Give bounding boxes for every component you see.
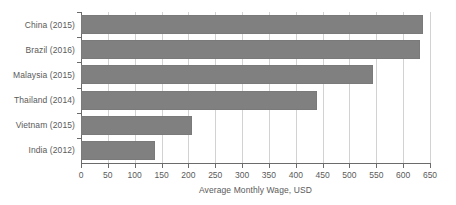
y-axis-tick-label: Thailand (2014) <box>0 88 75 113</box>
x-axis-tick <box>430 164 431 168</box>
x-axis-tick-label: 300 <box>235 170 249 180</box>
x-axis-tick-label: 500 <box>342 170 356 180</box>
x-axis-tick <box>81 164 82 168</box>
y-axis-tick <box>77 62 81 63</box>
bar <box>81 15 423 34</box>
gridline <box>430 12 431 163</box>
x-axis-tick-label: 450 <box>316 170 330 180</box>
y-axis-tick-label: Malaysia (2015) <box>0 62 75 87</box>
x-axis-tick <box>349 164 350 168</box>
y-axis-tick-label: India (2012) <box>0 138 75 163</box>
x-axis-tick <box>188 164 189 168</box>
x-axis-tick-label: 350 <box>262 170 276 180</box>
bar-row <box>81 138 430 163</box>
x-axis-tick <box>296 164 297 168</box>
bar <box>81 116 192 135</box>
bar-row <box>81 12 430 37</box>
x-axis-tick <box>108 164 109 168</box>
y-axis-labels: China (2015)Brazil (2016)Malaysia (2015)… <box>0 12 75 163</box>
bar-row <box>81 37 430 62</box>
x-axis-tick <box>162 164 163 168</box>
x-axis-tick <box>135 164 136 168</box>
x-axis-title: Average Monthly Wage, USD <box>81 185 430 195</box>
bar <box>81 40 420 59</box>
x-axis-tick <box>242 164 243 168</box>
y-axis-tick-label: China (2015) <box>0 12 75 37</box>
x-axis-tick-label: 0 <box>79 170 84 180</box>
x-axis-tick-label: 600 <box>396 170 410 180</box>
bar-chart: China (2015)Brazil (2016)Malaysia (2015)… <box>0 0 456 205</box>
x-axis-tick-label: 150 <box>154 170 168 180</box>
plot-area <box>81 12 430 163</box>
x-axis-tick-label: 100 <box>128 170 142 180</box>
x-axis-line <box>81 163 431 164</box>
x-axis-tick-label: 650 <box>423 170 437 180</box>
y-axis-tick <box>77 37 81 38</box>
y-axis-tick <box>77 138 81 139</box>
y-axis-tick <box>77 88 81 89</box>
y-axis-tick <box>77 113 81 114</box>
bar-row <box>81 113 430 138</box>
bar <box>81 91 317 110</box>
x-axis-tick <box>323 164 324 168</box>
y-axis-tick-label: Vietnam (2015) <box>0 113 75 138</box>
x-axis-tick <box>215 164 216 168</box>
x-axis-tick-label: 50 <box>103 170 112 180</box>
x-axis-tick <box>403 164 404 168</box>
y-axis-tick <box>77 12 81 13</box>
x-axis-tick-label: 250 <box>208 170 222 180</box>
bar-row <box>81 88 430 113</box>
bar <box>81 65 373 84</box>
x-axis-tick-label: 400 <box>289 170 303 180</box>
x-axis-tick <box>269 164 270 168</box>
x-axis-tick-label: 200 <box>181 170 195 180</box>
x-axis-tick <box>376 164 377 168</box>
x-axis-tick-label: 550 <box>369 170 383 180</box>
bar-series <box>81 12 430 163</box>
bar-row <box>81 62 430 87</box>
y-axis-tick-label: Brazil (2016) <box>0 37 75 62</box>
bar <box>81 141 155 160</box>
